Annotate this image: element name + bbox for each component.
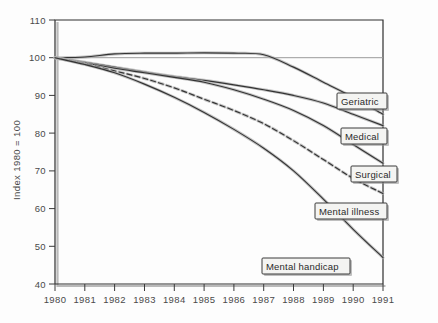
y-tick-label-40: 40	[35, 279, 46, 290]
y-tick-label-100: 100	[29, 52, 46, 63]
x-tick-labels: 1980 1981 1982 1983 1984 1985 1986 1987 …	[44, 294, 395, 305]
series-mental-illness	[55, 58, 383, 194]
mental-handicap-label-text: Mental handicap	[266, 261, 339, 272]
series-surgical-line	[55, 58, 383, 164]
medical-label-text: Medical	[345, 131, 379, 142]
x-tick-label-1980: 1980	[44, 294, 67, 305]
series-surgical	[55, 58, 383, 164]
geriatric-label-text: Geriatric	[341, 96, 379, 107]
y-tick-label-110: 110	[30, 15, 46, 26]
plot-frame	[55, 20, 386, 286]
x-tick-label-1983: 1983	[133, 294, 156, 305]
x-tick-label-1989: 1989	[312, 294, 335, 305]
data-series-layer	[55, 53, 383, 258]
y-tick-marks	[49, 20, 55, 284]
frame-drop-shadow	[58, 22, 386, 286]
series-mental-illness-line	[55, 58, 383, 194]
series-label-geriatric[interactable]: Geriatric	[337, 93, 389, 111]
x-tick-label-1990: 1990	[342, 294, 365, 305]
series-label-surgical[interactable]: Surgical	[351, 166, 399, 184]
series-label-mental-handicap[interactable]: Mental handicap	[262, 258, 352, 276]
frame-border	[55, 20, 383, 284]
x-tick-label-1985: 1985	[193, 294, 216, 305]
series-label-medical[interactable]: Medical	[341, 128, 389, 146]
series-label-mental-illness[interactable]: Mental illness	[315, 203, 389, 221]
x-tick-label-1991: 1991	[372, 294, 395, 305]
y-tick-label-70: 70	[35, 165, 46, 176]
series-mental-illness-halo	[55, 58, 383, 194]
line-chart: 110 100 90 80 70 60 50 40 Index 1980 = 1…	[0, 0, 438, 323]
y-tick-label-90: 90	[35, 90, 46, 101]
x-tick-label-1986: 1986	[223, 294, 246, 305]
series-callouts: Geriatric Medical Surgical Mental illnes…	[262, 93, 399, 276]
x-tick-label-1984: 1984	[163, 294, 186, 305]
x-tick-label-1981: 1981	[73, 294, 96, 305]
y-tick-label-50: 50	[35, 241, 46, 252]
x-tick-label-1987: 1987	[252, 294, 275, 305]
y-tick-labels: 110 100 90 80 70 60 50 40	[29, 15, 46, 290]
y-tick-label-60: 60	[35, 203, 46, 214]
y-tick-label-80: 80	[35, 128, 46, 139]
y-axis-title: Index 1980 = 100	[11, 120, 22, 200]
chart-container: 110 100 90 80 70 60 50 40 Index 1980 = 1…	[0, 0, 438, 323]
surgical-label-text: Surgical	[355, 169, 391, 180]
x-tick-label-1988: 1988	[282, 294, 305, 305]
mental-illness-label-text: Mental illness	[319, 206, 379, 217]
x-tick-label-1982: 1982	[103, 294, 126, 305]
series-surgical-halo	[55, 58, 383, 164]
